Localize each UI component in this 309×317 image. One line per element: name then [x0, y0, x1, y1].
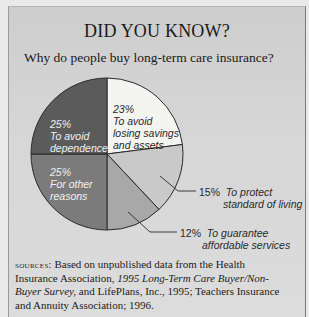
label-savings: 23% To avoid losing savings and assets: [113, 103, 179, 151]
label-other-line2: reasons: [50, 190, 93, 202]
label-standard-line1: To protect: [226, 186, 272, 198]
label-dependence: 25% To avoid dependence: [50, 118, 108, 154]
label-afford-line2: affordable services: [180, 239, 290, 251]
label-savings-pct: 23%: [113, 103, 179, 115]
label-dependence-pct: 25%: [50, 118, 108, 130]
label-other: 25% For other reasons: [50, 166, 93, 202]
sources-note: sources: Based on unpublished data from …: [15, 258, 290, 312]
label-other-pct: 25%: [50, 166, 93, 178]
label-standard-line2: standard of living: [199, 198, 302, 210]
label-afford: 12% To guarantee affordable services: [180, 227, 290, 251]
label-other-line1: For other: [50, 178, 93, 190]
label-standard: 15% To protect standard of living: [199, 186, 302, 210]
label-dependence-line2: dependence: [50, 142, 108, 154]
label-standard-pct: 15%: [199, 186, 220, 198]
label-savings-line2: losing savings: [113, 127, 179, 139]
sources-prefix: sources:: [15, 259, 52, 270]
label-afford-line1: To guarantee: [207, 227, 269, 239]
label-afford-pct: 12%: [180, 227, 201, 239]
label-savings-line1: To avoid: [113, 115, 179, 127]
label-dependence-line1: To avoid: [50, 130, 108, 142]
label-savings-line3: and assets: [113, 139, 179, 151]
